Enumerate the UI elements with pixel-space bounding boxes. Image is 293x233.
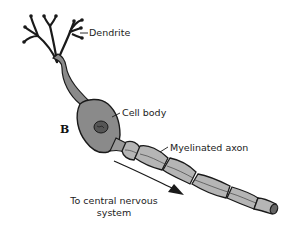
direction-arrow-head	[168, 184, 184, 195]
label-dendrite: Dendrite	[89, 28, 130, 38]
label-direction: To central nervous system	[69, 196, 159, 217]
label-cell-body: Cell body	[122, 108, 166, 118]
label-direction-line1: To central nervous	[69, 196, 159, 206]
dendrite-trunk	[53, 54, 90, 104]
dendrites	[24, 16, 82, 62]
neuron-diagram: Dendrite Cell body Myelinated axon B To …	[0, 0, 293, 233]
label-direction-line2: system	[69, 208, 159, 218]
nucleus	[94, 121, 108, 133]
label-myelinated-axon: Myelinated axon	[170, 143, 248, 153]
panel-letter: B	[60, 123, 69, 136]
